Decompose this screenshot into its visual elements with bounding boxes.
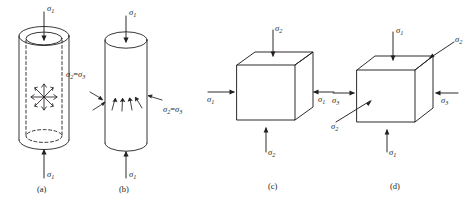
sigma-1-bottom-arrow-b [123, 151, 128, 178]
panel-b-drawing [85, 0, 205, 202]
cube-front-face [237, 65, 295, 120]
panel-b-caption: (b) [119, 185, 129, 194]
sigma-2-top-label: σ2 [275, 24, 282, 33]
sigma-1-top-label: σ1 [47, 4, 54, 13]
cube-d-right-face [415, 56, 433, 122]
cube-right-face [295, 52, 313, 120]
cylinder-bottom-inner-ellipse [26, 130, 62, 143]
sigma-1-left-arrow [208, 90, 235, 95]
confining-pressure-arrows [90, 92, 162, 111]
sigma-3-left-arrow [333, 91, 355, 96]
sigma-2-upper-right-label: σ2 [455, 35, 462, 44]
panel-c-caption: (c) [268, 182, 277, 191]
sigma-1-bottom-label-b: σ1 [129, 170, 136, 179]
sigma-1-bottom-label-d: σ1 [389, 148, 396, 157]
sigma-1-top-arrow-d [391, 32, 396, 61]
sigma-2-top-arrow [271, 30, 276, 57]
sigma-1-right-label: σ1 [318, 95, 325, 104]
cylinder-b-bottom-arc [105, 143, 147, 151]
sigma-2-equals-sigma-3-label-b: σ2=σ3 [163, 105, 182, 114]
sigma-1-left-label: σ1 [207, 95, 214, 104]
sigma-1-top-label-b: σ1 [129, 8, 136, 17]
cube-top-face [237, 52, 313, 65]
sigma-3-right-label: σ3 [441, 96, 448, 105]
cube-d-top-face [357, 56, 433, 70]
panel-a-caption: (a) [37, 185, 46, 194]
sigma-1-top-arrow-b [123, 16, 128, 43]
internal-radial-burst-arrows [31, 84, 57, 110]
sigma-3-left-label: σ3 [332, 96, 339, 105]
sigma-2-bottom-label: σ2 [268, 148, 275, 157]
sigma-2-lower-left-arrow [336, 100, 372, 122]
sigma-1-top-label-d: σ1 [396, 26, 403, 35]
sigma-3-right-arrow [435, 91, 458, 96]
stress-state-figure: σ1 σ1 (a) σ2=σ3 [0, 0, 472, 202]
sigma-1-bottom-label: σ1 [47, 170, 54, 179]
sigma-2-equals-sigma-3-label-a: σ2=σ3 [66, 70, 85, 79]
panel-b: σ1 σ1 (b) [85, 0, 205, 202]
panel-d-caption: (d) [390, 182, 400, 191]
sigma-2-lower-left-label: σ2 [331, 122, 338, 131]
panel-d: σ1 σ1 σ3 σ3 σ2 σ2 (d) [330, 0, 472, 202]
cylinder-bottom-outer-arc [19, 140, 69, 150]
panel-c: σ2 σ2 σ1 σ1 (c) [200, 0, 335, 202]
cube-d-front-face [357, 70, 415, 122]
sigma-2-upper-right-arrow [429, 42, 455, 59]
sigma-1-bottom-arrow [41, 149, 46, 178]
panel-c-drawing [200, 0, 335, 202]
